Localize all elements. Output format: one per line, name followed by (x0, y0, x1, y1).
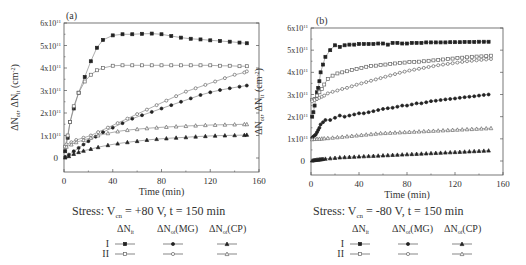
svg-text:6x1011: 6x1011 (287, 24, 308, 33)
svg-text:2x1011: 2x1011 (287, 113, 308, 122)
legend-row-label: II (337, 248, 344, 259)
series-i-not-cp- (310, 149, 490, 162)
legend-header: ΔNot(CP) (209, 223, 246, 235)
svg-text:6x1011: 6x1011 (40, 19, 61, 28)
svg-text:0: 0 (54, 153, 59, 163)
stress-label-a: Stress: Vcn = +80 V, t = 150 min (72, 205, 262, 223)
svg-text:5x1011: 5x1011 (287, 46, 308, 55)
legend-header: ΔNot(MG) (392, 223, 433, 235)
plot-frame (64, 23, 259, 172)
stress-label-b: Stress: Vcn = -80 V, t = 150 min (313, 205, 503, 223)
svg-text:4x1011: 4x1011 (287, 68, 308, 77)
svg-text:0: 0 (62, 176, 67, 186)
svg-text:40: 40 (355, 179, 365, 189)
svg-text:1x1011: 1x1011 (287, 135, 308, 144)
svg-text:120: 120 (448, 179, 462, 189)
legend-header: ΔNot(CP) (444, 223, 481, 235)
legend-header: ΔNit (117, 223, 134, 235)
svg-text:160: 160 (252, 176, 266, 186)
series-i-not-mg- (64, 84, 249, 158)
legend-b: Stress: Vcn = -80 V, t = 150 min (313, 205, 503, 223)
series-i-nit (311, 40, 490, 118)
legend-row-label: II (102, 248, 109, 259)
svg-text:3x1011: 3x1011 (287, 91, 308, 100)
svg-text:40: 40 (108, 176, 118, 186)
series-ii-not-mg- (65, 70, 248, 146)
y-axis-label: ΔNot, ΔNit (cm-2) (253, 68, 265, 135)
legend-a: Stress: Vcn = +80 V, t = 150 min (72, 205, 262, 223)
svg-text:120: 120 (204, 176, 218, 186)
legend-header: ΔNot(MG) (157, 223, 198, 235)
svg-text:160: 160 (496, 179, 510, 189)
svg-text:0: 0 (309, 179, 314, 189)
svg-text:80: 80 (403, 179, 413, 189)
series-ii-not-cp- (310, 126, 492, 140)
svg-text:80: 80 (157, 176, 167, 186)
svg-text:0: 0 (301, 156, 306, 166)
x-axis-label: Time (min) (139, 186, 184, 198)
x-axis-label: Time (min) (384, 189, 429, 201)
svg-text:3x1011: 3x1011 (40, 87, 61, 96)
y-axis-label: ΔNot, ΔNit (cm-2) (9, 64, 21, 131)
svg-text:2x1011: 2x1011 (40, 109, 61, 118)
svg-text:4x1011: 4x1011 (40, 64, 61, 73)
svg-text:1x1011: 1x1011 (40, 132, 61, 141)
legend-header: ΔNit (352, 223, 369, 235)
svg-text:5x1011: 5x1011 (40, 42, 61, 51)
panel-label: (b) (316, 15, 328, 27)
panel-label: (a) (66, 10, 77, 22)
figure: 01x10112x10113x10114x10115x10116x1011040… (0, 0, 526, 265)
